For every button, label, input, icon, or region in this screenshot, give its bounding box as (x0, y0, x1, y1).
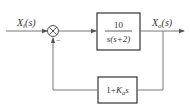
forward-transfer-block: 10 s(s+2) (97, 13, 140, 50)
feedback-transfer-block: 1+Kas (98, 77, 137, 103)
output-label: Xo(s) (151, 17, 173, 30)
feedback-return-line (53, 38, 98, 90)
feedback-sign: − (56, 36, 61, 45)
forward-numerator: 10 (114, 20, 124, 30)
feedback-takeoff-line (138, 31, 163, 90)
block-diagram: Xi(s) − 10 s(s+2) Xo(s) 1+Kas (0, 0, 190, 112)
input-label: Xi(s) (16, 17, 36, 30)
forward-denominator: s(s+2) (107, 34, 131, 44)
feedback-block-label: 1+Kas (106, 85, 129, 96)
summing-junction (48, 26, 59, 37)
